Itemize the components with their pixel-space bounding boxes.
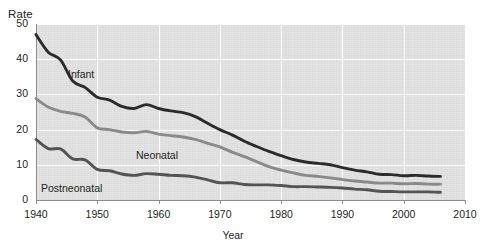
series-label-neonatal: Neonatal [136, 149, 178, 161]
series-lines [0, 0, 483, 249]
series-label-infant: Infant [68, 68, 94, 80]
series-label-postneonatal: Postneonatal [41, 182, 102, 194]
infant-mortality-line-chart: Rate Year 01020304050 194019501960197019… [0, 0, 483, 249]
series-line-neonatal [36, 99, 440, 185]
